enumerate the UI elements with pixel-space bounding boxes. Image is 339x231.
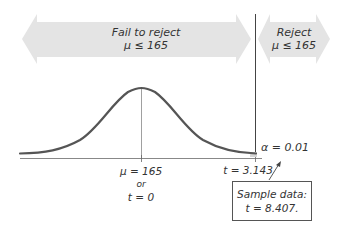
fail-to-reject-label: Fail to reject μ ≤ 165: [96, 26, 196, 52]
or-label: or: [111, 178, 171, 191]
fail-to-reject-text: Fail to reject: [96, 26, 196, 39]
fail-to-reject-hypothesis: μ ≤ 165: [96, 39, 196, 52]
reject-hypothesis: μ ≤ 165: [262, 39, 326, 52]
sample-data-value: t = 8.407.: [233, 201, 311, 215]
reject-text: Reject: [262, 26, 326, 39]
mean-axis-label: μ = 165 or t = 0: [111, 165, 171, 204]
t-zero-label: t = 0: [111, 191, 171, 204]
sample-data-box: Sample data: t = 8.407.: [232, 181, 312, 221]
mean-value-label: μ = 165: [111, 165, 171, 178]
critical-value-label: t = 3.143: [218, 165, 278, 176]
reject-label: Reject μ ≤ 165: [262, 26, 326, 52]
sample-data-title: Sample data:: [233, 187, 311, 201]
alpha-label: α = 0.01: [261, 142, 309, 153]
normal-curve: [20, 88, 256, 154]
